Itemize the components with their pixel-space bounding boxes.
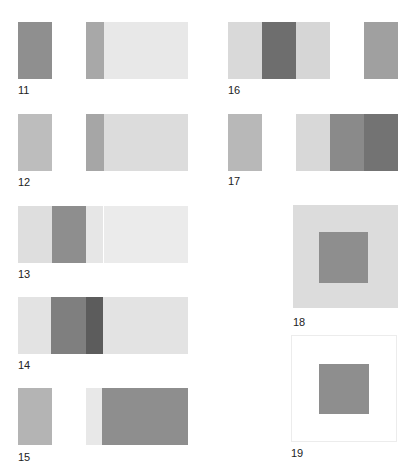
figure-label-13: 13 — [18, 268, 30, 280]
color-stripe — [262, 114, 296, 171]
color-stripe — [52, 388, 86, 445]
color-stripe — [51, 297, 86, 354]
color-stripe — [52, 114, 86, 171]
figure-label-18: 18 — [293, 316, 305, 328]
stripe-panel-13 — [18, 206, 188, 263]
figure-label-19: 19 — [291, 447, 303, 459]
color-stripe — [86, 206, 103, 263]
color-stripe — [86, 22, 104, 79]
color-stripe — [330, 114, 364, 171]
color-stripe — [296, 22, 330, 79]
color-stripe — [228, 114, 262, 171]
color-stripe — [102, 388, 188, 445]
color-stripe — [52, 206, 86, 263]
figure-label-16: 16 — [228, 84, 240, 96]
color-stripe — [86, 114, 104, 171]
color-stripe — [104, 114, 188, 171]
figure-label-17: 17 — [228, 175, 240, 187]
color-stripe — [262, 22, 296, 79]
stripe-panel-17 — [228, 114, 398, 171]
color-stripe — [18, 114, 52, 171]
square-panel-19-center — [319, 364, 369, 414]
color-stripe — [364, 114, 398, 171]
color-stripe — [86, 388, 102, 445]
stripe-panel-14 — [18, 297, 188, 354]
color-stripe — [330, 22, 364, 79]
figure-label-11: 11 — [18, 84, 29, 96]
figure-label-15: 15 — [18, 451, 30, 463]
stripe-panel-15 — [18, 388, 188, 445]
color-stripe — [296, 114, 330, 171]
stripe-panel-12 — [18, 114, 188, 171]
color-stripe — [364, 22, 398, 79]
color-stripe — [18, 22, 52, 79]
color-stripe — [228, 22, 262, 79]
figure-label-14: 14 — [18, 359, 30, 371]
color-stripe — [18, 297, 51, 354]
color-stripe — [86, 297, 103, 354]
square-panel-18-center — [319, 232, 368, 283]
color-stripe — [103, 297, 188, 354]
stripe-panel-16 — [228, 22, 398, 79]
color-stripe — [52, 22, 86, 79]
color-stripe — [18, 206, 52, 263]
color-stripe — [18, 388, 52, 445]
color-stripe — [104, 206, 188, 263]
figure-label-12: 12 — [18, 176, 30, 188]
stripe-panel-11 — [18, 22, 188, 79]
color-stripe — [104, 22, 188, 79]
